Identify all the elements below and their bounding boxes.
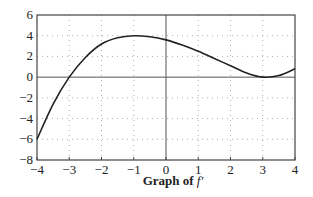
y-tick-label: −2: [19, 90, 33, 105]
chart-graph-of-f-prime: −4−3−2−101234−8−6−4−20246: [0, 0, 313, 197]
y-tick-label: 6: [27, 7, 34, 22]
caption-italic-text: f′: [197, 173, 203, 188]
y-tick-label: 0: [27, 69, 34, 84]
y-tick-label: −4: [19, 111, 33, 126]
y-tick-label: 4: [27, 28, 34, 43]
chart-caption: Graph of f′: [0, 173, 313, 189]
y-tick-label: −6: [19, 131, 33, 146]
caption-bold-text: Graph of: [143, 173, 197, 188]
y-tick-label: 2: [27, 48, 34, 63]
y-tick-label: −8: [19, 152, 33, 167]
